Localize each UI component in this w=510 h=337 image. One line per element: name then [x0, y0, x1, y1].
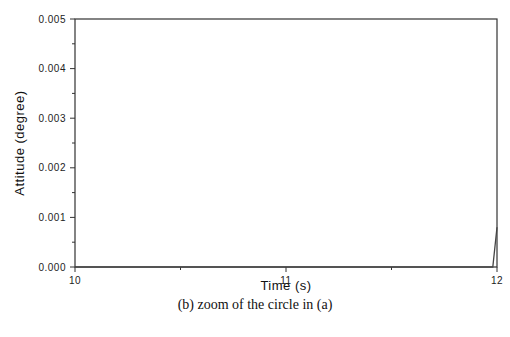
figure-caption: (b) zoom of the circle in (a) [0, 297, 510, 313]
x-axis-title: Time (s) [260, 278, 311, 293]
chart: 0.0000.0010.0020.0030.0040.005 101112 Ti… [0, 0, 510, 297]
series-line [75, 227, 497, 267]
x-tick-label: 10 [69, 275, 81, 286]
y-axis: 0.0000.0010.0020.0030.0040.005 [38, 14, 75, 273]
y-tick-label: 0.000 [38, 262, 66, 273]
y-tick-label: 0.005 [38, 14, 66, 25]
y-tick-label: 0.002 [38, 162, 66, 173]
y-tick-label: 0.004 [38, 63, 66, 74]
plot-frame [75, 19, 497, 267]
data-series [75, 227, 497, 267]
y-tick-label: 0.003 [38, 113, 66, 124]
y-axis-title: Attitude (degree) [12, 90, 27, 195]
plot-border [75, 19, 497, 267]
y-tick-label: 0.001 [38, 212, 66, 223]
x-tick-label: 12 [491, 275, 503, 286]
